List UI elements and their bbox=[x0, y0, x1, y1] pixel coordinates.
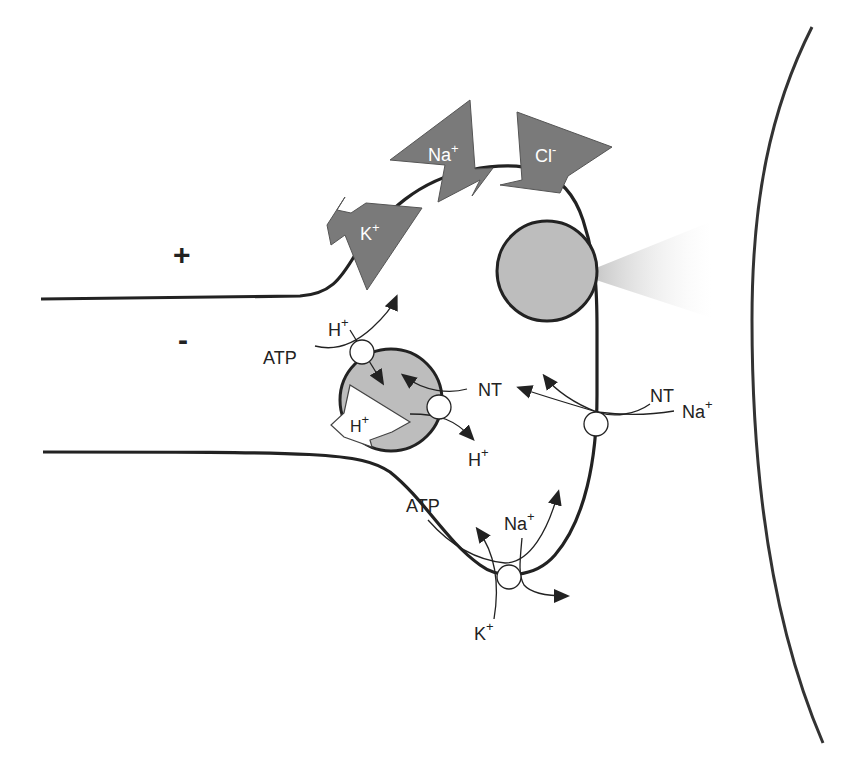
docked-vesicle bbox=[497, 221, 597, 321]
outside-charge-label: + bbox=[173, 238, 191, 271]
reuptake-transporter bbox=[584, 412, 608, 436]
na-k-pump-k-label: K+ bbox=[474, 619, 494, 644]
reuptake-nt-label: NT bbox=[650, 386, 674, 406]
vesicle-antiporter-h-label: H+ bbox=[468, 445, 489, 470]
na-channel-arrow: Na+ bbox=[390, 100, 493, 202]
release-cone bbox=[596, 222, 712, 318]
cl-channel-arrow: Cl- bbox=[500, 112, 612, 193]
vesicle-antiporter bbox=[427, 395, 451, 419]
reuptake-na-label: Na+ bbox=[682, 397, 713, 422]
vesicle-nt-label: NT bbox=[478, 380, 502, 400]
inside-charge-label: - bbox=[178, 323, 188, 356]
vesicle-pump bbox=[350, 340, 374, 364]
na-k-pump-atp-label: ATP bbox=[406, 496, 440, 516]
postsynaptic-membrane bbox=[752, 27, 823, 743]
vesicle-pump-h-label: H+ bbox=[328, 315, 349, 340]
na-k-pump-na-label: Na+ bbox=[504, 509, 535, 534]
synapse-diagram: H+ K+ Na+ Cl- + - ATP H+ NT H+ NT Na+ bbox=[0, 0, 863, 776]
na-k-pump bbox=[497, 565, 521, 589]
vesicle-pump-atp-label: ATP bbox=[263, 348, 297, 368]
